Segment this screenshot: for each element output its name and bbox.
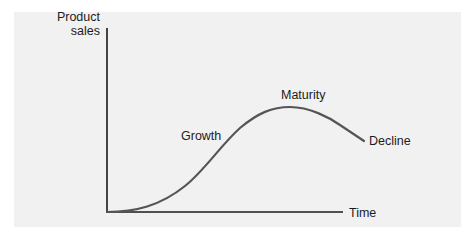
decline-label: Decline [369, 134, 411, 148]
y-axis-label-line2: sales [20, 24, 100, 38]
growth-label: Growth [181, 129, 221, 143]
y-axis-label-line1: Product [20, 10, 100, 24]
maturity-label: Maturity [281, 88, 325, 102]
y-axis-label: Product sales [20, 10, 100, 38]
x-axis-label: Time [349, 206, 376, 220]
sales-curve [107, 107, 364, 212]
